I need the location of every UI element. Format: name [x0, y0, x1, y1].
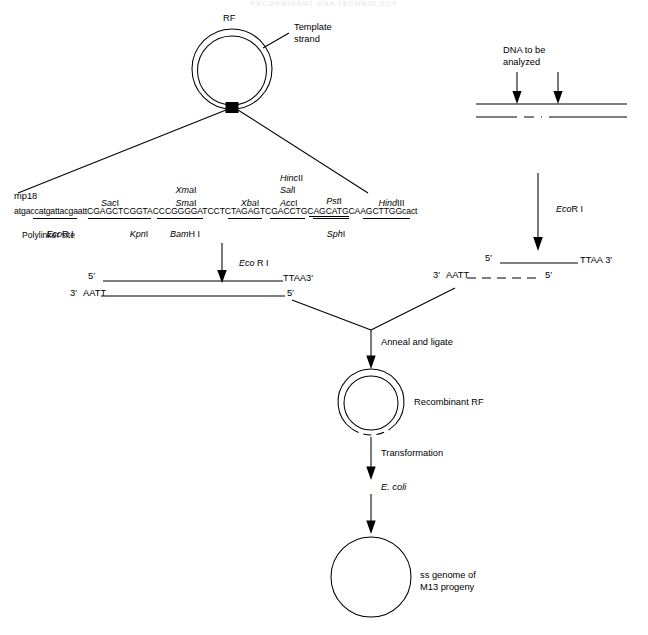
ss-genome-label-line2: M13 progeny — [420, 583, 474, 592]
enzyme-label-bamh-i: BamH I — [157, 218, 203, 248]
vector-bottom-left-prime: 3′ — [70, 289, 77, 298]
vector-digest-label: Eco R I — [229, 250, 269, 277]
insert-cut-arrow-2-head — [553, 91, 562, 104]
insert-digest-italic: Eco — [556, 204, 572, 214]
enzyme-roman-pst: I — [339, 196, 342, 206]
dna-to-analyze-label-line2: analyzed — [503, 58, 540, 67]
progeny-arrow-head — [366, 521, 375, 535]
recombinant-rf-inner-circle — [344, 376, 398, 430]
rf-outer-circle — [192, 29, 272, 109]
insert-cut-arrow-1-head — [512, 91, 521, 104]
transformation-arrow-head — [366, 467, 375, 481]
insert-top-left-prime: 5′ — [485, 254, 492, 263]
insert-bottom-right-prime: 5′ — [545, 271, 552, 280]
insert-bottom-left-prime: 3′ — [433, 271, 440, 280]
vector-top-left-prime: 5′ — [88, 272, 95, 281]
enzyme-italic-pst: Pst — [326, 196, 339, 206]
enzyme-roman-sph: I — [343, 229, 346, 239]
ss-genome-label-line1: ss genome of — [420, 571, 476, 580]
host-organism-label: E. coli — [381, 483, 406, 492]
anneal-join-right — [371, 288, 455, 330]
insert-digest-roman: R I — [572, 204, 584, 214]
anneal-join-left — [292, 300, 371, 330]
vector-bottom-right-prime: 5′ — [287, 289, 294, 298]
anneal-and-ligate-label: Anneal and ligate — [381, 338, 453, 347]
enzyme-italic-kpn: Kpn — [130, 229, 146, 239]
vector-digest-italic: Eco — [239, 258, 255, 268]
polylinker-sequence: atgaccatgattacgaattCGAGCTCGGTACCCGGGGATC… — [14, 207, 417, 216]
recombinant-rf-outer-arc-solid — [338, 369, 404, 429]
figure-canvas: RECOMBINANT DNA TECHNOLOGY — [0, 0, 648, 635]
vector-digest-roman: R I — [255, 258, 269, 268]
vector-bottom-left-overhang: AATT — [83, 289, 106, 298]
insert-top-right-overhang: TTAA 3′ — [580, 256, 612, 265]
enzyme-roman-bam: H I — [189, 229, 201, 239]
rf-inner-circle — [198, 36, 267, 105]
polylinker-site-label: Polylinker site — [22, 231, 75, 240]
vector-top-right-overhang: TTAA3′ — [283, 274, 313, 283]
recombinant-rf-label: Recombinant RF — [414, 398, 484, 407]
template-strand-label-line1: Template — [294, 23, 332, 32]
enzyme-italic-sph: Sph — [327, 229, 343, 239]
template-strand-label-line2: strand — [294, 35, 320, 44]
insert-bottom-left-overhang: AATT — [446, 271, 469, 280]
insert-digest-arrow-head — [533, 237, 543, 251]
template-strand-leader — [263, 33, 289, 48]
diagram-lines — [0, 0, 648, 635]
dna-to-analyze-label-line1: DNA to be — [503, 46, 545, 55]
ss-genome-circle — [331, 537, 411, 617]
insert-digest-label: EcoR I — [546, 196, 583, 223]
polylinker-site-marker — [226, 102, 239, 113]
transformation-label: Transformation — [381, 449, 443, 458]
enzyme-label-sph-i: SphI — [313, 218, 349, 248]
rf-label: RF — [223, 14, 235, 23]
clone-name-label: mp18 — [14, 192, 37, 201]
enzyme-roman-kpn: I — [146, 229, 149, 239]
anneal-arrow-head — [366, 356, 375, 370]
enzyme-italic-bam: Bam — [170, 229, 189, 239]
enzyme-label-kpn-i: KpnI — [117, 218, 151, 248]
